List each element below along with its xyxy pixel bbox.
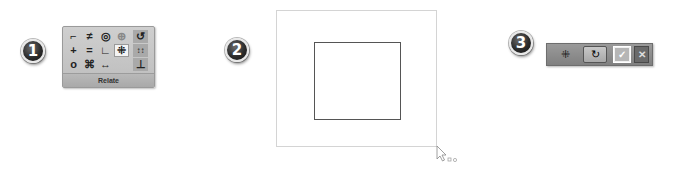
ribbon-group-label: Relate xyxy=(63,73,154,87)
select-button[interactable]: ⁜ xyxy=(551,46,579,63)
lock-icon[interactable]: ⊕ xyxy=(114,30,129,43)
relate-icon-grid: ⌐ ≠ ◎ ⊕ ↺ + = ∟ ⁜ ↕↕ o ⌘ ↔ ⊥ xyxy=(65,29,151,73)
command-toolbar: ⁜ ↻ ✓ ✕ xyxy=(546,43,653,66)
parallel-icon[interactable]: ≠ xyxy=(82,30,97,43)
symmetric-select-icon: ⁜ xyxy=(561,48,570,61)
select-cursor-icon xyxy=(436,145,460,165)
rigid-set-icon[interactable]: ⌘ xyxy=(82,58,97,71)
accept-button[interactable]: ✓ xyxy=(613,46,631,63)
collinear-icon[interactable]: + xyxy=(66,44,81,57)
maintain-relationships-icon[interactable]: ⊥ xyxy=(133,58,148,71)
relate-assist-icon[interactable]: ↺ xyxy=(133,30,148,43)
horizontal-vertical-icon[interactable]: ∟ xyxy=(98,44,113,57)
check-icon: ✓ xyxy=(615,48,629,61)
concentric-icon[interactable]: ◎ xyxy=(98,30,113,43)
equal-icon[interactable]: = xyxy=(82,44,97,57)
cancel-button[interactable]: ✕ xyxy=(634,46,649,63)
dimension-icon[interactable]: ↕↕ xyxy=(133,44,148,57)
perpendicular-icon[interactable]: ⌐ xyxy=(66,30,81,43)
relate-ribbon-group: ⌐ ≠ ◎ ⊕ ↺ + = ∟ ⁜ ↕↕ o ⌘ ↔ ⊥ Relate xyxy=(62,26,155,88)
rotate-icon: ↻ xyxy=(591,48,600,61)
tangent-icon[interactable]: o xyxy=(66,58,81,71)
sketch-rectangle[interactable] xyxy=(314,42,401,120)
step-badge-3: 3 xyxy=(509,31,533,55)
rotate-button[interactable]: ↻ xyxy=(583,46,607,63)
step-badge-1: 1 xyxy=(21,39,45,63)
close-icon: ✕ xyxy=(638,49,646,60)
symmetric-icon[interactable]: ⁜ xyxy=(114,44,129,57)
connect-icon[interactable]: ↔ xyxy=(98,58,113,71)
step-badge-2: 2 xyxy=(225,38,249,62)
